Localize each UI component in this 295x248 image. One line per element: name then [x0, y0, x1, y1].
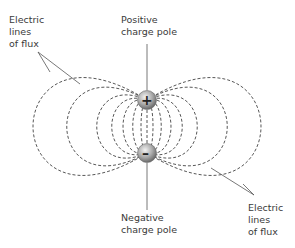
positive-pole-label: Positive charge pole: [121, 14, 177, 38]
leader-lines: [38, 44, 254, 210]
positive-symbol: +: [141, 92, 153, 108]
flux-label-top-left: Electric lines of flux: [9, 14, 44, 50]
flux-label-bottom-right: Electric lines of flux: [248, 202, 283, 238]
negative-symbol: –: [142, 145, 149, 161]
negative-pole-label: Negative charge pole: [121, 212, 177, 236]
